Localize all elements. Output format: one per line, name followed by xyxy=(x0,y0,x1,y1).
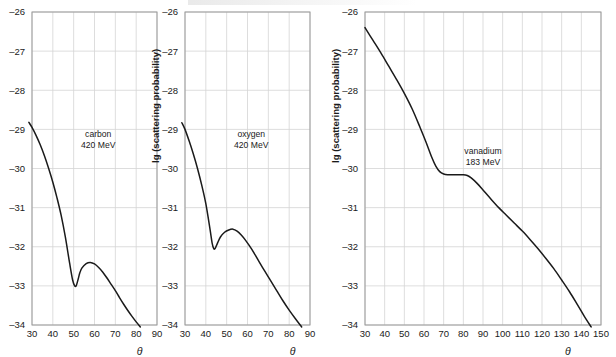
y-axis-label: lg (scattering probability) xyxy=(330,49,341,163)
x-tick-label: 80 xyxy=(284,328,295,339)
gridlines-vanadium xyxy=(365,12,601,325)
x-axis-label: θ xyxy=(137,345,143,357)
gridlines-carbon xyxy=(32,12,157,325)
annotation-energy: 183 MeV xyxy=(466,157,501,167)
y-tick-label: –33 xyxy=(162,280,178,291)
x-tick-label: 80 xyxy=(131,328,142,339)
x-tick-label: 90 xyxy=(305,328,316,339)
y-tick-label: –29 xyxy=(162,124,178,135)
x-tick-label: 120 xyxy=(534,328,550,339)
x-tick-label: 40 xyxy=(48,328,59,339)
x-tick-label: 30 xyxy=(360,328,371,339)
y-tick-label: –26 xyxy=(342,6,358,17)
y-tick-label: –28 xyxy=(9,85,25,96)
y-tick-label: –30 xyxy=(9,163,25,174)
x-axis-ticks-vanadium: 30405060708090100110120130140150 xyxy=(360,328,609,339)
annotation-energy: 420 MeV xyxy=(234,140,269,150)
y-tick-label: –28 xyxy=(342,85,358,96)
y-tick-label: –29 xyxy=(342,124,358,135)
y-tick-label: –29 xyxy=(9,124,25,135)
x-tick-label: 50 xyxy=(399,328,410,339)
x-axis-ticks-oxygen: 30405060708090 xyxy=(180,328,316,339)
plot-carbon: –26–27–28–29–30–31–32–33–343040506070809… xyxy=(0,0,172,357)
annotation-element-name: vanadium xyxy=(464,146,501,156)
x-tick-label: 30 xyxy=(180,328,191,339)
y-tick-label: –28 xyxy=(162,85,178,96)
x-tick-label: 70 xyxy=(263,328,274,339)
y-axis-ticks-carbon: –26–27–28–29–30–31–32–33–34 xyxy=(9,6,25,330)
x-tick-label: 60 xyxy=(242,328,253,339)
scattering-probability-figure: –26–27–28–29–30–31–32–33–343040506070809… xyxy=(0,0,616,357)
y-tick-label: –26 xyxy=(162,6,178,17)
annotation-element-name: oxygen xyxy=(237,129,265,139)
x-tick-label: 90 xyxy=(478,328,489,339)
gridlines-oxygen xyxy=(185,12,310,325)
x-tick-label: 70 xyxy=(110,328,121,339)
x-tick-label: 40 xyxy=(201,328,212,339)
y-axis-ticks-oxygen: –26–27–28–29–30–31–32–33–34 xyxy=(162,6,178,330)
x-axis-label: θ xyxy=(290,345,296,357)
y-tick-label: –34 xyxy=(9,319,25,330)
x-axis-label: θ xyxy=(565,345,571,357)
x-tick-label: 150 xyxy=(593,328,609,339)
y-tick-label: –27 xyxy=(162,46,178,57)
y-tick-label: –26 xyxy=(9,6,25,17)
y-tick-label: –32 xyxy=(162,241,178,252)
y-tick-label: –30 xyxy=(342,163,358,174)
y-tick-label: –31 xyxy=(162,202,178,213)
x-tick-label: 130 xyxy=(554,328,570,339)
plot-oxygen: –26–27–28–29–30–31–32–33–343040506070809… xyxy=(155,0,343,357)
x-tick-label: 60 xyxy=(419,328,430,339)
x-tick-label: 140 xyxy=(573,328,589,339)
y-tick-label: –34 xyxy=(162,319,178,330)
annotation-energy: 420 MeV xyxy=(81,140,116,150)
y-tick-label: –31 xyxy=(9,202,25,213)
y-tick-label: –31 xyxy=(342,202,358,213)
curve-carbon xyxy=(29,122,140,327)
y-tick-label: –32 xyxy=(342,241,358,252)
panel-oxygen: –26–27–28–29–30–31–32–33–343040506070809… xyxy=(155,0,343,357)
x-tick-label: 40 xyxy=(379,328,390,339)
y-axis-label: lg (scattering probability) xyxy=(150,49,161,163)
x-tick-label: 110 xyxy=(515,328,530,339)
x-tick-label: 80 xyxy=(458,328,469,339)
curve-vanadium xyxy=(365,28,591,327)
y-tick-label: –27 xyxy=(342,46,358,57)
x-tick-label: 50 xyxy=(68,328,79,339)
x-tick-label: 60 xyxy=(89,328,100,339)
annotation-element-name: carbon xyxy=(85,129,111,139)
y-tick-label: –33 xyxy=(342,280,358,291)
x-tick-label: 100 xyxy=(495,328,511,339)
x-axis-ticks-carbon: 30405060708090 xyxy=(27,328,163,339)
curve-oxygen xyxy=(182,123,302,327)
y-tick-label: –33 xyxy=(9,280,25,291)
x-tick-label: 70 xyxy=(438,328,449,339)
plot-vanadium: –26–27–28–29–30–31–32–33–343040506070809… xyxy=(326,0,616,357)
panel-vanadium: –26–27–28–29–30–31–32–33–343040506070809… xyxy=(326,0,616,357)
y-tick-label: –32 xyxy=(9,241,25,252)
y-tick-label: –27 xyxy=(9,46,25,57)
y-tick-label: –34 xyxy=(342,319,358,330)
x-tick-label: 30 xyxy=(27,328,38,339)
y-axis-ticks-vanadium: –26–27–28–29–30–31–32–33–34 xyxy=(342,6,358,330)
x-tick-label: 50 xyxy=(221,328,232,339)
panel-carbon: –26–27–28–29–30–31–32–33–343040506070809… xyxy=(0,0,172,357)
y-tick-label: –30 xyxy=(162,163,178,174)
